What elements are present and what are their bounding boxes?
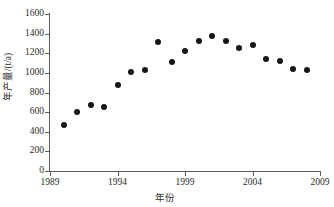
data-point <box>155 39 161 45</box>
data-point <box>263 56 269 62</box>
data-point <box>115 82 121 88</box>
data-point <box>250 42 256 48</box>
y-axis-tick-label: 1400 <box>4 29 44 39</box>
x-axis-tick <box>185 172 186 176</box>
y-axis-tick <box>45 132 50 133</box>
y-axis-tick <box>45 151 50 152</box>
x-axis-tick <box>50 172 51 176</box>
data-point <box>196 38 202 44</box>
data-point <box>61 122 67 128</box>
y-axis-tick-label: 0 <box>4 166 44 176</box>
data-point <box>88 102 94 108</box>
data-point <box>304 67 310 73</box>
y-axis-tick-label: 200 <box>4 146 44 156</box>
x-axis-tick <box>320 172 321 176</box>
x-axis-tick-label: 1989 <box>27 178 73 188</box>
y-axis-tick <box>45 73 50 74</box>
data-point <box>290 66 296 72</box>
y-axis-tick <box>45 34 50 35</box>
x-axis-tick-label: 1994 <box>95 178 141 188</box>
data-point <box>169 59 175 65</box>
x-axis-tick <box>118 172 119 176</box>
y-axis-tick <box>45 93 50 94</box>
data-point <box>182 48 188 54</box>
data-point <box>101 104 107 110</box>
data-point <box>223 38 229 44</box>
y-axis-title: 年产量/(t/a) <box>0 39 14 115</box>
y-axis-tick <box>45 112 50 113</box>
data-point <box>142 67 148 73</box>
y-axis-tick-label: 1600 <box>4 9 44 19</box>
x-axis-tick-label: 1999 <box>162 178 208 188</box>
x-axis-tick-label: 2004 <box>230 178 276 188</box>
y-axis-tick <box>45 14 50 15</box>
data-point <box>209 33 215 39</box>
y-axis-tick <box>45 53 50 54</box>
data-point <box>277 58 283 64</box>
data-point <box>236 45 242 51</box>
x-axis-tick <box>253 172 254 176</box>
y-axis-tick-label: 400 <box>4 127 44 137</box>
data-point <box>128 69 134 75</box>
x-axis-title: 年份 <box>0 190 329 204</box>
data-point <box>74 109 80 115</box>
x-axis-tick-label: 2009 <box>297 178 334 188</box>
